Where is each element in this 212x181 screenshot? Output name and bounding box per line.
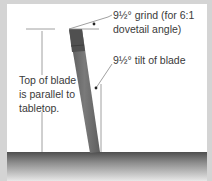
grind-angle-dot: [93, 23, 96, 26]
parallel-label-line1: Top of blade: [19, 74, 76, 87]
diagram-frame: 9½° grind (for 6:1 dovetail angle) 9½° t…: [0, 0, 212, 181]
grind-label-line1: 9½° grind (for 6:1: [113, 9, 194, 22]
tabletop: [7, 152, 207, 181]
tilt-angle-dot: [95, 87, 98, 90]
tilt-label: 9½° tilt of blade: [113, 54, 186, 67]
grind-label-line2: dovetail angle): [113, 23, 181, 36]
parallel-label-line2: is parallel to: [19, 88, 75, 101]
parallel-label-line3: tabletop.: [19, 102, 59, 115]
